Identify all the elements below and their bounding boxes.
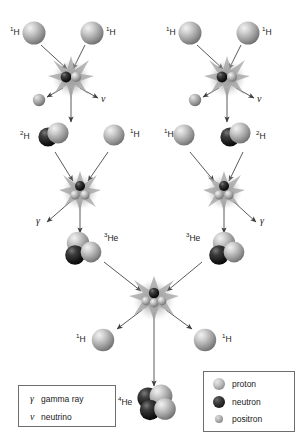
- neutrino-symbol-icon: ν: [30, 411, 41, 422]
- legend-row-neutrino: ν neutrino: [30, 411, 72, 422]
- legend-neutron-label: neutron: [232, 397, 261, 407]
- proton-sphere-icon: [173, 124, 194, 145]
- fusion-burst-1-right: [204, 56, 250, 99]
- deuterium-nucleus-left: [38, 122, 68, 146]
- legend-gamma-label: gamma ray: [41, 394, 84, 404]
- label-he3-left: 3He: [104, 234, 118, 243]
- gamma-symbol-icon: γ: [30, 393, 41, 404]
- arrow-h1-to-fusion2-right: [190, 152, 214, 181]
- label-he4: 4He: [118, 398, 132, 407]
- legend-row-proton: proton: [213, 378, 256, 390]
- positron-sphere-icon: [189, 94, 201, 106]
- label-deuterium-left: 2H: [20, 132, 30, 141]
- legend-positron-label: positron: [232, 414, 262, 424]
- fusion-burst-2-left: [59, 171, 101, 212]
- label-h1-right-b: 1H: [262, 28, 272, 37]
- arrow-h1-to-fusion2-left: [88, 152, 108, 181]
- label-h1-mid-left: 1H: [130, 130, 140, 139]
- label-gamma-left: γ: [36, 216, 40, 226]
- label-neutrino-right: ν: [257, 94, 261, 104]
- label-neutrino-left: ν: [101, 94, 105, 104]
- arrow-deuterium-to-fusion2-left: [55, 152, 73, 181]
- legend-row-positron: positron: [213, 414, 262, 424]
- fusion-burst-1-left: [48, 56, 94, 99]
- helium-3-nucleus-left: [65, 232, 101, 265]
- label-he3-right: 3He: [186, 234, 200, 243]
- proton-sphere-icon: [23, 22, 46, 45]
- proton-sphere-icon: [103, 124, 124, 145]
- legend-row-neutron: neutron: [213, 396, 261, 408]
- label-h1-out-left: 1H: [76, 335, 86, 344]
- label-h1-right-a: 1H: [166, 28, 176, 37]
- arrow-he3-right-to-final-fusion: [167, 262, 202, 291]
- proton-sphere-icon: [92, 329, 114, 351]
- arrow-he3-left-to-final-fusion: [104, 262, 141, 291]
- legend-row-gamma: γ gamma ray: [30, 393, 84, 404]
- proton-sphere-icon: [213, 378, 225, 390]
- proton-sphere-icon: [194, 329, 216, 351]
- label-h1-mid-right: 1H: [164, 130, 174, 139]
- label-gamma-right: γ: [260, 216, 264, 226]
- helium-3-nucleus-right: [209, 232, 244, 265]
- diagram-canvas: 1H 1H 1H 1H ν ν 2H 1H 1H 2H γ γ 3He 3He …: [0, 0, 308, 443]
- proton-sphere-icon: [81, 22, 104, 45]
- label-h1-left-b: 1H: [106, 28, 116, 37]
- deuterium-nucleus-right: [220, 122, 250, 146]
- legend-neutrino-label: neutrino: [41, 412, 72, 422]
- positron-sphere-icon: [33, 94, 45, 106]
- label-h1-left-a: 1H: [10, 28, 20, 37]
- fusion-burst-2-right: [203, 171, 245, 212]
- proton-sphere-icon: [179, 22, 202, 45]
- legend-proton-label: proton: [232, 379, 256, 389]
- helium-4-nucleus: [137, 385, 175, 421]
- positron-sphere-icon: [215, 415, 223, 423]
- label-deuterium-right: 2H: [256, 132, 266, 141]
- neutron-sphere-icon: [213, 396, 225, 408]
- proton-sphere-icon: [237, 22, 260, 45]
- label-h1-out-right: 1H: [222, 335, 232, 344]
